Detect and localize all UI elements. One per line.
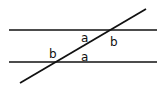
diagram-canvas: a b b a	[0, 0, 164, 89]
angle-label-b-bottom: b	[49, 47, 57, 61]
angle-label-b-top: b	[110, 35, 118, 49]
angle-label-a-bottom: a	[81, 50, 88, 64]
angle-label-a-top: a	[81, 31, 88, 45]
transversal-line	[20, 9, 146, 83]
